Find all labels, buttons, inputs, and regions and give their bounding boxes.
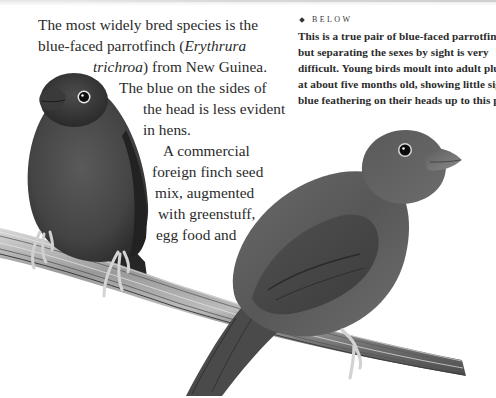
body-text-segment: mix, augmented: [155, 184, 254, 201]
species-name-italic: trichroa: [93, 58, 143, 75]
body-text-segment: blue-faced parrotfinch (: [38, 37, 184, 54]
body-line-2: blue-faced parrotfinch (Erythrura: [38, 35, 246, 56]
body-line-4: The blue on the sides of: [119, 77, 267, 98]
caption-line: This is a true pair of blue-faced parrot…: [298, 28, 494, 44]
body-text-segment: ) from New Guinea.: [143, 58, 267, 75]
book-page: The most widely bred species is the blue…: [0, 0, 496, 398]
body-line-9: mix, augmented: [155, 182, 254, 203]
body-text-segment: with greenstuff,: [158, 205, 255, 222]
body-line-8: foreign finch seed: [152, 161, 263, 182]
body-line-1: The most widely bred species is the: [38, 14, 258, 35]
body-line-7: A commercial: [163, 140, 250, 161]
caption-line: blue feathering on their heads up to thi…: [298, 92, 494, 108]
body-text-segment: egg food and: [156, 226, 236, 243]
caption-line: at about five months old, showing little…: [298, 76, 494, 92]
body-text-segment: foreign finch seed: [152, 163, 263, 180]
caption-line: but separating the sexes by sight is ver…: [298, 44, 494, 60]
body-text-segment: The blue on the sides of: [119, 79, 267, 96]
body-line-5: the head is less evident: [143, 98, 285, 119]
body-line-10: with greenstuff,: [158, 203, 255, 224]
caption-text: This is a true pair of blue-faced parrot…: [298, 28, 494, 108]
body-text: The most widely bred species is the blue…: [0, 0, 300, 260]
species-name-italic: Erythrura: [184, 37, 246, 54]
body-text-segment: A commercial: [163, 142, 250, 159]
body-text-segment: The most widely bred species is the: [38, 16, 258, 33]
body-line-3: trichroa) from New Guinea.: [93, 56, 267, 77]
photo-caption: BELOW This is a true pair of blue-faced …: [298, 14, 494, 108]
body-text-segment: the head is less evident: [143, 100, 285, 117]
caption-label: BELOW: [298, 14, 494, 26]
body-line-6: in hens.: [143, 119, 191, 140]
caption-line: difficult. Young birds moult into adult …: [298, 60, 494, 76]
body-line-11: egg food and: [156, 224, 236, 245]
body-text-segment: in hens.: [143, 121, 191, 138]
diamond-bullet-icon: [299, 17, 305, 23]
caption-label-text: BELOW: [312, 14, 352, 26]
